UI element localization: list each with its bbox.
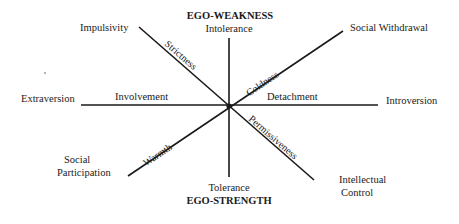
control-label: Control <box>341 187 373 199</box>
participation-label: Participation <box>57 167 111 179</box>
impulsivity-label: Impulsivity <box>80 22 128 34</box>
social-label: Social <box>64 154 90 166</box>
extraversion-label: Extraversion <box>21 93 75 105</box>
ego-weakness-heading: EGO-WEAKNESS <box>187 10 273 22</box>
intolerance-label: Intolerance <box>205 23 252 35</box>
center-point <box>226 103 231 108</box>
tolerance-label: Tolerance <box>208 182 249 194</box>
introversion-label: Introversion <box>386 95 437 107</box>
social-withdrawal-label: Social Withdrawal <box>350 22 428 34</box>
stray-dot <box>44 72 46 74</box>
ego-strength-heading: EGO-STRENGTH <box>186 195 271 207</box>
intellectual-label: Intellectual <box>339 174 386 186</box>
detachment-label: Detachment <box>267 91 318 103</box>
involvement-label: Involvement <box>115 91 168 103</box>
